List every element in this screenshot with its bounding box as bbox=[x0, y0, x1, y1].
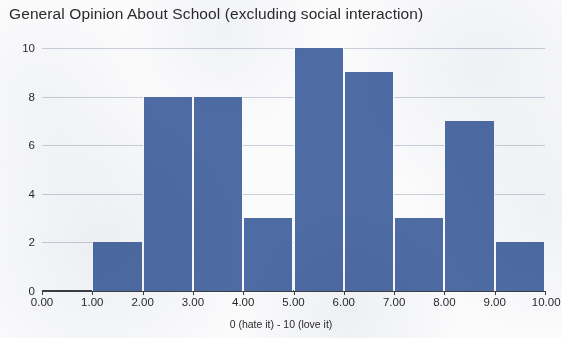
bar-bin-6-7[interactable] bbox=[344, 72, 394, 291]
x-tick-label-8: 8.00 bbox=[433, 296, 455, 308]
y-tick-label-10: 10 bbox=[22, 42, 35, 54]
x-tick-label-7: 7.00 bbox=[383, 296, 405, 308]
x-tick-label-2: 2.00 bbox=[131, 296, 153, 308]
plot-area: 0 2 4 6 8 10 0.00 1 bbox=[42, 48, 545, 291]
x-tick-label-3: 3.00 bbox=[182, 296, 204, 308]
x-tick-label-9: 9.00 bbox=[483, 296, 505, 308]
y-tick-label-2: 2 bbox=[29, 236, 35, 248]
chart-title: General Opinion About School (excluding … bbox=[9, 5, 423, 23]
x-tick-label-5: 5.00 bbox=[282, 296, 304, 308]
x-tick-mark-4 bbox=[243, 291, 244, 295]
bar-bin-9-10[interactable] bbox=[495, 242, 545, 291]
x-tick-mark-7 bbox=[394, 291, 395, 295]
bar-bin-7-8[interactable] bbox=[394, 218, 444, 291]
x-axis-label: 0 (hate it) - 10 (love it) bbox=[0, 318, 562, 330]
bar-bin-1-2[interactable] bbox=[92, 242, 142, 291]
x-tick-label-6: 6.00 bbox=[333, 296, 355, 308]
bar-bin-8-9[interactable] bbox=[444, 121, 494, 291]
histogram-chart: General Opinion About School (excluding … bbox=[0, 0, 562, 338]
x-tick-mark-6 bbox=[344, 291, 345, 295]
x-tick-mark-5 bbox=[294, 291, 295, 295]
x-tick-mark-0 bbox=[42, 291, 43, 295]
x-tick-label-10: 10.00 bbox=[532, 296, 561, 308]
bar-bin-5-6[interactable] bbox=[294, 48, 344, 291]
bar-bin-2-3[interactable] bbox=[143, 97, 193, 291]
x-tick-mark-10 bbox=[545, 291, 546, 295]
bar-bin-3-4[interactable] bbox=[193, 97, 243, 291]
y-tick-label-8: 8 bbox=[29, 91, 35, 103]
x-tick-label-1: 1.00 bbox=[81, 296, 103, 308]
bars-layer bbox=[42, 48, 545, 291]
x-tick-label-4: 4.00 bbox=[232, 296, 254, 308]
x-tick-mark-2 bbox=[143, 291, 144, 295]
bar-bin-4-5[interactable] bbox=[243, 218, 293, 291]
x-tick-label-0: 0.00 bbox=[31, 296, 53, 308]
x-tick-mark-1 bbox=[92, 291, 93, 295]
x-tick-mark-8 bbox=[444, 291, 445, 295]
y-tick-label-6: 6 bbox=[29, 139, 35, 151]
x-tick-mark-3 bbox=[193, 291, 194, 295]
x-tick-mark-9 bbox=[495, 291, 496, 295]
y-tick-label-4: 4 bbox=[29, 188, 35, 200]
